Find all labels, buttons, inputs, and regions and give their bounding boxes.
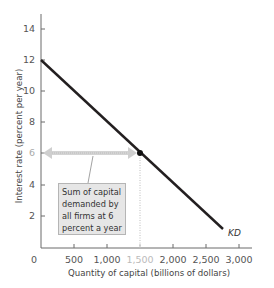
x-ticks [74,244,239,248]
y-tick-label: 2 [29,210,35,221]
x-tick-labels: 0 500 1,000 1,500 2,000 2,500 3,000 [31,254,253,265]
y-tick-label: 8 [29,116,35,127]
y-tick-label: 14 [23,23,35,34]
equilibrium-point [137,150,143,156]
chart: 14 12 10 8 6 4 2 0 500 1,000 1,500 2,000… [0,0,274,288]
annotation-line: Sum of capital [62,186,122,198]
annotation-line: all firms at 6 [62,210,122,222]
y-tick-label: 12 [23,54,35,65]
annotation-line: demanded by [62,198,122,210]
x-tick-label: 3,000 [225,254,252,265]
x-tick-label: 500 [65,254,83,265]
annotation-box: Sum of capital demanded by all firms at … [58,183,126,235]
y-tick-labels: 14 12 10 8 6 4 2 [23,23,35,221]
x-axis-title: Quantity of capital (billions of dollars… [68,268,230,278]
y-tick-label: 4 [29,179,35,190]
x-tick-label: 1,500 [126,254,153,265]
annotation-line: percent a year [62,222,122,234]
y-tick-label: 6 [29,147,35,158]
y-axis-title: Interest rate (percent per year) [14,69,24,204]
x-tick-label: 2,500 [192,254,219,265]
x-origin-label: 0 [31,254,37,265]
double-arrow [43,147,137,159]
y-tick-label: 10 [23,85,35,96]
annotation-leader [88,156,93,183]
kd-label: KD [228,228,241,238]
y-ticks [41,29,45,216]
x-tick-label: 1,000 [93,254,120,265]
x-tick-label: 2,000 [159,254,186,265]
